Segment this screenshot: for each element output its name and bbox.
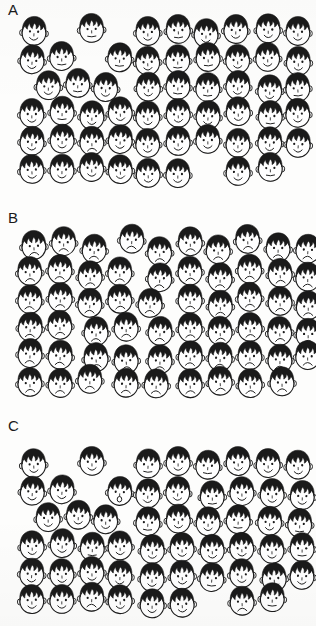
panel-c: C [0, 416, 316, 626]
panel-b-faces [0, 208, 316, 416]
face-happy [162, 584, 202, 624]
face-neutral [252, 578, 292, 618]
panel-c-faces [0, 416, 316, 626]
face-happy [158, 154, 198, 194]
face-sad [262, 362, 302, 402]
panel-b: B [0, 208, 316, 416]
panel-b-label: B [8, 210, 19, 225]
panel-a: A [0, 0, 316, 208]
panel-a-faces [0, 0, 316, 208]
panel-a-label: A [8, 2, 19, 17]
face-sad [70, 360, 110, 400]
face-neutral [250, 148, 290, 188]
panel-c-label: C [8, 418, 19, 433]
figure-container: A B C [0, 0, 316, 626]
